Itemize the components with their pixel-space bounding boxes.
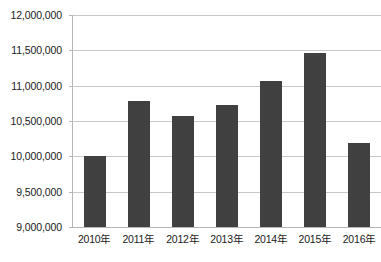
bar-slot xyxy=(205,15,249,227)
y-axis-tick-label: 12,000,000 xyxy=(10,9,62,21)
plot-area xyxy=(72,15,381,227)
y-axis-labels: 9,000,0009,500,00010,000,00010,500,00011… xyxy=(0,0,68,262)
y-axis-tick-label: 9,500,000 xyxy=(16,186,62,198)
y-axis-tick-label: 11,500,000 xyxy=(11,44,62,56)
x-axis-tick-label: 2012年 xyxy=(160,231,204,246)
x-axis-tick-label: 2011年 xyxy=(116,231,160,246)
bar-slot xyxy=(161,15,205,227)
x-axis-labels: 2010年2011年2012年2013年2014年2015年2016年 xyxy=(72,231,381,246)
bar xyxy=(260,81,282,227)
bar-slot xyxy=(249,15,293,227)
x-axis-tick-label: 2016年 xyxy=(337,231,381,246)
bar-slot xyxy=(293,15,337,227)
bar xyxy=(304,53,326,227)
bar-slot xyxy=(73,15,117,227)
bar-slot xyxy=(117,15,161,227)
bar-slot xyxy=(337,15,381,227)
x-axis-tick-label: 2013年 xyxy=(204,231,248,246)
bar xyxy=(348,143,370,227)
y-axis-tick-label: 11,000,000 xyxy=(11,80,62,92)
x-axis-tick-label: 2010年 xyxy=(72,231,116,246)
bar xyxy=(172,116,194,227)
bar xyxy=(84,156,106,227)
y-axis-tick-label: 10,000,000 xyxy=(10,150,62,162)
x-axis-tick-label: 2014年 xyxy=(249,231,293,246)
y-axis-tick-label: 9,000,000 xyxy=(16,221,62,233)
bar xyxy=(216,105,238,227)
x-axis-tick-label: 2015年 xyxy=(293,231,337,246)
y-axis-tick-label: 10,500,000 xyxy=(10,115,62,127)
bar xyxy=(128,101,150,227)
y-axis-tick xyxy=(69,227,73,228)
bar-chart: 9,000,0009,500,00010,000,00010,500,00011… xyxy=(0,0,381,262)
axis-baseline xyxy=(73,227,381,228)
bar-series xyxy=(73,15,381,227)
